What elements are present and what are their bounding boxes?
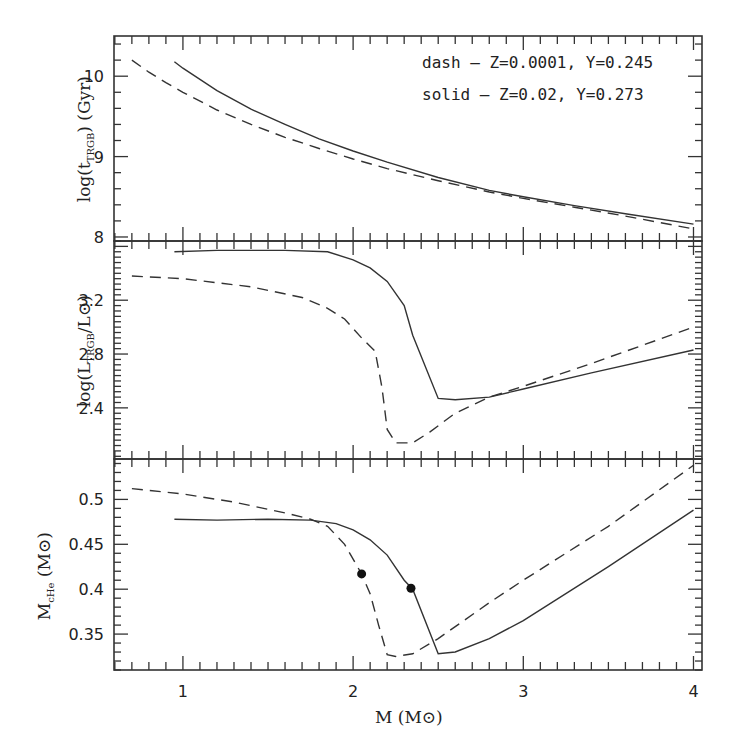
- solid-series-line: [174, 250, 693, 399]
- top-panel: 8910dash – Z=0.0001, Y=0.245solid – Z=0.…: [84, 36, 702, 247]
- bottom-panel-y-axis-label: McHe (M⊙): [34, 511, 56, 641]
- y-tick-label: 0.35: [68, 625, 104, 644]
- x-tick-label: 4: [688, 682, 698, 701]
- x-tick-label: 1: [178, 682, 188, 701]
- middle-panel: 2.42.83.2: [79, 241, 702, 459]
- dashed-series-line: [132, 465, 694, 656]
- solid-series-line: [174, 510, 693, 654]
- x-tick-label: 2: [348, 682, 358, 701]
- y-tick-label: 0.5: [79, 490, 104, 509]
- x-axis-label: M (M⊙): [375, 707, 443, 727]
- legend-dash-entry: dash – Z=0.0001, Y=0.245: [422, 53, 653, 72]
- middle-panel-y-axis-label: log(LTRGB/L⊙): [74, 256, 96, 446]
- data-point-marker: [406, 584, 415, 593]
- x-tick-label: 3: [518, 682, 528, 701]
- top-panel-y-axis-label: log(tTRGB) (Gyr): [74, 44, 96, 234]
- y-tick-label: 0.4: [79, 580, 104, 599]
- panel-frame: [114, 241, 702, 459]
- bottom-panel: 0.350.40.450.51234: [68, 459, 702, 701]
- panel-frame: [114, 459, 702, 670]
- chart-figure: 8910dash – Z=0.0001, Y=0.245solid – Z=0.…: [0, 0, 736, 754]
- y-tick-label: 0.45: [68, 535, 104, 554]
- dashed-series-line: [132, 276, 694, 443]
- data-point-marker: [357, 569, 366, 578]
- legend-solid-entry: solid – Z=0.02, Y=0.273: [422, 85, 644, 104]
